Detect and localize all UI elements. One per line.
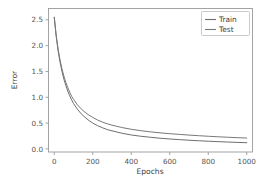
legend-label-train: Train: [218, 15, 237, 24]
y-tick-label: 1.5: [32, 67, 43, 76]
y-tick-label: 2.5: [32, 15, 43, 24]
y-tick-label: 0.5: [32, 119, 43, 128]
x-axis-label: Epochs: [136, 167, 163, 176]
x-tick-label: 800: [201, 157, 215, 166]
x-tick-label: 200: [86, 157, 100, 166]
x-tick-label: 600: [163, 157, 177, 166]
x-tick-label: 400: [124, 157, 138, 166]
legend[interactable]: Train Test: [202, 12, 250, 36]
y-axis-label: Error: [10, 70, 19, 89]
legend-label-test: Test: [218, 25, 234, 34]
figure-canvas: 02004006008001000 0.00.51.01.52.02.5 Epo…: [0, 0, 269, 184]
x-tick-label: 0: [52, 157, 57, 166]
line-chart: 02004006008001000 0.00.51.01.52.02.5 Epo…: [0, 0, 269, 184]
y-tick-label: 1.0: [32, 93, 44, 102]
y-tick-label: 0.0: [32, 145, 44, 154]
x-tick-label: 1000: [238, 157, 257, 166]
y-tick-label: 2.0: [32, 41, 44, 50]
